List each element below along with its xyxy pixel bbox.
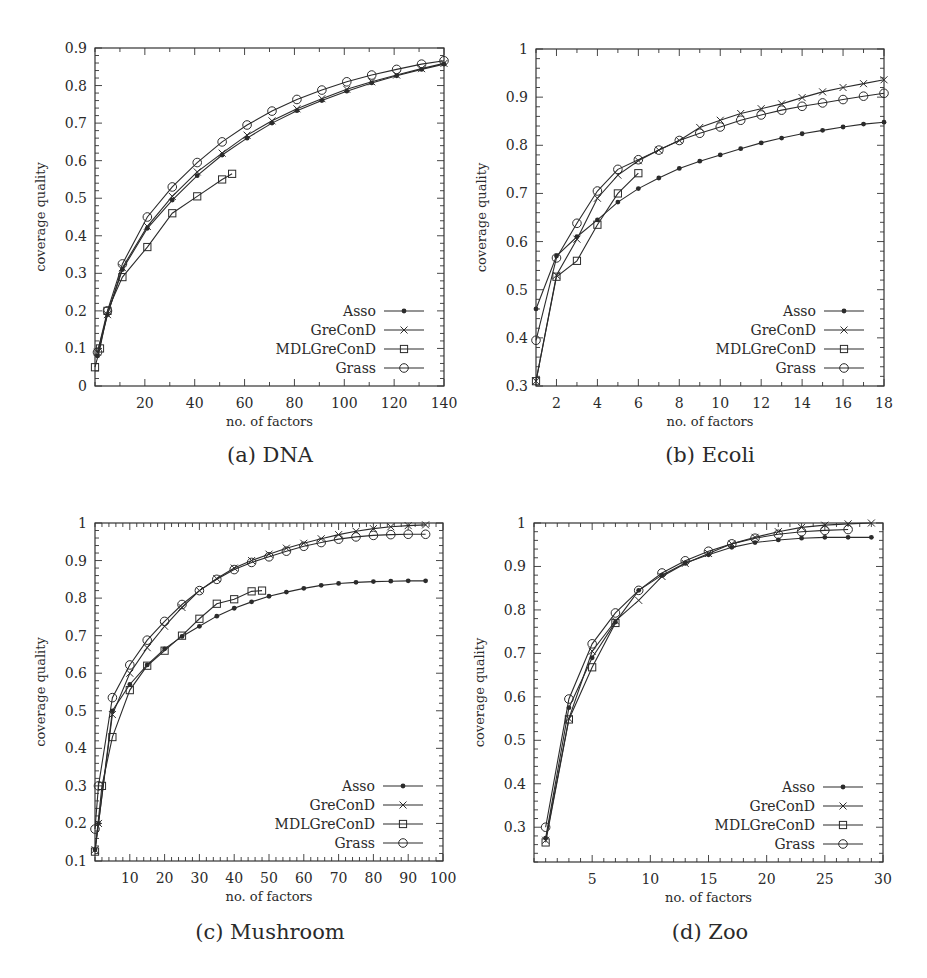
legend-label: MDLGreConD — [715, 817, 815, 833]
y-tick-label: 0.8 — [504, 602, 526, 618]
asso-marker — [799, 536, 804, 541]
asso-marker — [841, 785, 846, 790]
y-axis-label: coverage quality — [472, 637, 487, 747]
y-tick-label: 0.3 — [504, 819, 526, 835]
series-mdlgrecond — [542, 619, 619, 846]
x-tick-label: 30 — [874, 871, 892, 887]
plot-zoo: 510152025300.30.40.50.60.70.80.91no. of … — [472, 515, 892, 905]
series-grecond — [542, 520, 875, 844]
asso-marker — [869, 535, 874, 540]
x-tick-label: 5 — [588, 871, 597, 887]
legend-item-asso: Asso — [781, 779, 863, 795]
y-tick-label: 0.6 — [504, 689, 526, 705]
y-tick-label: 1 — [517, 515, 526, 531]
legend-item-mdlgrecond: MDLGreConD — [715, 817, 863, 833]
asso-marker — [846, 535, 851, 540]
y-tick-label: 0.7 — [504, 645, 526, 661]
legend-label: GreConD — [749, 798, 815, 814]
y-tick-label: 0.4 — [504, 776, 526, 792]
legend: AssoGreConDMDLGreConDGrass — [715, 779, 863, 852]
x-tick-label: 15 — [700, 871, 718, 887]
y-tick-label: 0.9 — [504, 558, 526, 574]
x-tick-label: 10 — [641, 871, 659, 887]
plot-frame — [534, 523, 883, 862]
legend-item-grass: Grass — [774, 836, 863, 852]
y-tick-label: 0.5 — [504, 732, 526, 748]
legend-item-grecond: GreConD — [749, 798, 863, 814]
tick-marks — [534, 523, 883, 862]
x-tick-label: 20 — [758, 871, 776, 887]
legend-label: Asso — [781, 779, 815, 795]
x-tick-label: 25 — [816, 871, 834, 887]
chart-panel-zoo: 510152025300.30.40.50.60.70.80.91no. of … — [0, 0, 927, 978]
asso-marker — [822, 535, 827, 540]
grecond-marker — [635, 597, 642, 604]
caption-zoo: (d) Zoo — [560, 920, 860, 944]
chart-zoo: 510152025300.30.40.50.60.70.80.91no. of … — [0, 0, 927, 978]
x-axis-label: no. of factors — [665, 890, 752, 905]
legend-label: Grass — [774, 836, 815, 852]
series-asso — [543, 535, 874, 841]
